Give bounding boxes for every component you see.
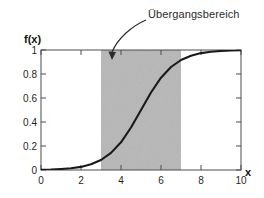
y-tick-label-3: 0.6 [4,93,37,104]
x-tick-label-4: 8 [198,175,204,186]
x-tick-label-0: 0 [38,175,44,186]
y-tick-label-2: 0.4 [4,117,37,128]
chart-figure: Übergangsbereich f(x) x 0 0.2 0.4 0.6 0.… [0,0,264,198]
y-tick-label-4: 0.8 [4,69,37,80]
y-tick-label-0: 0 [4,165,37,176]
x-tick-label-2: 4 [118,175,124,186]
plot-svg [0,0,264,198]
y-tick-label-5: 1 [4,45,37,56]
y-tick-label-1: 0.2 [4,141,37,152]
x-tick-label-3: 6 [158,175,164,186]
x-tick-label-1: 2 [78,175,84,186]
x-tick-label-5: 10 [235,175,246,186]
annotation-label: Übergangsbereich [148,8,240,21]
